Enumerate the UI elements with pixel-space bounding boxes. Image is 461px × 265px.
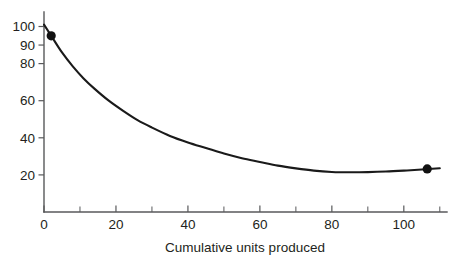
x-tick-label: 0 bbox=[40, 217, 48, 232]
chart-canvas: 2040608090100 020406080100 Cumulative un… bbox=[0, 0, 461, 265]
y-tick-label: 90 bbox=[20, 38, 35, 53]
chart-figure: 2040608090100 020406080100 Cumulative un… bbox=[0, 0, 461, 265]
y-tick-label: 60 bbox=[20, 93, 35, 108]
y-tick-label: 20 bbox=[20, 168, 35, 183]
data-point-marker-last-observation bbox=[423, 164, 432, 173]
x-axis-title: Cumulative units produced bbox=[165, 240, 325, 255]
y-tick-label: 80 bbox=[20, 56, 35, 71]
y-tick-label: 40 bbox=[20, 131, 35, 146]
x-tick-label: 40 bbox=[180, 217, 195, 232]
x-tick-label: 20 bbox=[108, 217, 123, 232]
x-tick-label: 80 bbox=[324, 217, 339, 232]
y-tick-label: 100 bbox=[12, 19, 35, 34]
x-tick-label: 60 bbox=[252, 217, 267, 232]
data-point-marker-first-observation bbox=[47, 31, 56, 40]
x-tick-label: 100 bbox=[393, 217, 416, 232]
